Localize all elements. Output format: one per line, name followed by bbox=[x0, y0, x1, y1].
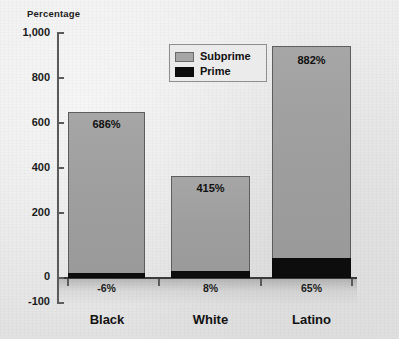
legend-label-prime: Prime bbox=[200, 66, 231, 77]
category-label-white: White bbox=[163, 312, 258, 327]
legend-entry-subprime[interactable]: Subprime bbox=[175, 49, 261, 64]
y-tick-1000 bbox=[57, 32, 64, 34]
bar-prime-white[interactable] bbox=[171, 271, 250, 278]
x-tick-1 bbox=[158, 279, 160, 286]
bar-value-subprime-black: 686% bbox=[68, 118, 145, 130]
bar-subprime-black[interactable] bbox=[68, 112, 145, 278]
y-tick-label-800: 800 bbox=[4, 72, 50, 83]
y-tick-label-neg100: -100 bbox=[4, 296, 50, 307]
y-tick-600 bbox=[57, 122, 64, 124]
bar-value-subprime-latino: 882% bbox=[272, 54, 351, 66]
legend-label-subprime: Subprime bbox=[200, 51, 251, 62]
bar-value-prime-black: -6% bbox=[68, 282, 145, 294]
y-tick-neg100 bbox=[57, 302, 64, 304]
bar-value-prime-latino: 65% bbox=[272, 282, 351, 294]
category-label-black: Black bbox=[60, 312, 154, 327]
y-tick-label-400: 400 bbox=[4, 162, 50, 173]
x-tick-2 bbox=[260, 279, 262, 286]
chart-legend: Subprime Prime bbox=[169, 44, 267, 82]
legend-swatch-prime-icon bbox=[175, 67, 194, 77]
y-tick-0 bbox=[57, 277, 64, 279]
bar-prime-black[interactable] bbox=[68, 273, 145, 278]
legend-swatch-subprime-icon bbox=[175, 52, 194, 62]
y-tick-400 bbox=[57, 167, 64, 169]
y-axis-title: Percentage bbox=[27, 8, 80, 19]
y-tick-label-600: 600 bbox=[4, 117, 50, 128]
bar-value-subprime-white: 415% bbox=[171, 182, 250, 194]
plot-area: Percentage 1,000 800 600 400 200 0 -100 bbox=[0, 0, 399, 339]
chart-page: Percentage 1,000 800 600 400 200 0 -100 bbox=[0, 0, 399, 339]
y-tick-label-1000: 1,000 bbox=[4, 27, 50, 38]
bar-prime-latino[interactable] bbox=[272, 258, 351, 278]
y-tick-label-200: 200 bbox=[4, 207, 50, 218]
category-label-latino: Latino bbox=[264, 312, 359, 327]
y-tick-200 bbox=[57, 212, 64, 214]
legend-entry-prime[interactable]: Prime bbox=[175, 64, 261, 79]
y-tick-label-0: 0 bbox=[4, 271, 50, 282]
bar-value-prime-white: 8% bbox=[171, 282, 250, 294]
x-tick-3 bbox=[351, 279, 353, 286]
y-tick-800 bbox=[57, 77, 64, 79]
bar-subprime-latino[interactable] bbox=[272, 46, 351, 259]
